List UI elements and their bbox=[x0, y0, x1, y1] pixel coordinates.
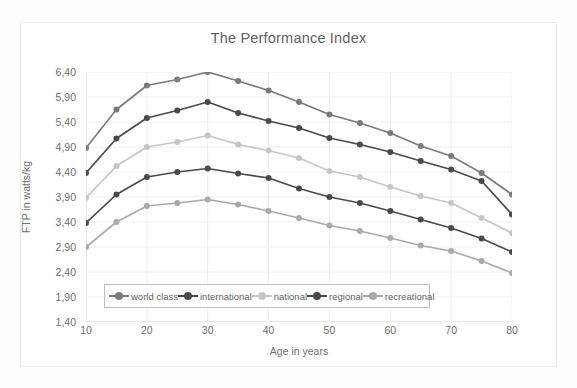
data-point-marker bbox=[296, 215, 302, 221]
y-axis-tick-label: 3,90 bbox=[56, 191, 76, 203]
y-axis-tick-labels: 1,401,902,402,903,403,904,404,905,405,90… bbox=[0, 72, 84, 322]
data-point-marker bbox=[479, 215, 485, 221]
x-axis-tick-label: 80 bbox=[506, 324, 518, 336]
series-line bbox=[86, 169, 512, 253]
y-axis-tick-label: 4,40 bbox=[56, 166, 76, 178]
y-axis-tick-label: 5,90 bbox=[56, 91, 76, 103]
chart-title: The Performance Index bbox=[0, 30, 577, 46]
data-point-marker bbox=[357, 228, 363, 234]
data-point-marker bbox=[418, 193, 424, 199]
data-point-marker bbox=[235, 202, 241, 208]
data-point-marker bbox=[205, 166, 211, 172]
data-point-marker bbox=[357, 120, 363, 126]
data-point-marker bbox=[479, 170, 485, 176]
x-axis-tick-label: 70 bbox=[445, 324, 457, 336]
y-axis-tick-label: 1,40 bbox=[56, 316, 76, 328]
data-point-marker bbox=[205, 99, 211, 105]
data-point-marker bbox=[235, 171, 241, 177]
data-point-marker bbox=[113, 136, 119, 142]
data-point-marker bbox=[266, 88, 272, 94]
data-point-marker bbox=[479, 236, 485, 242]
data-point-marker bbox=[509, 249, 512, 255]
data-point-marker bbox=[113, 219, 119, 225]
legend-marker-icon bbox=[178, 291, 198, 301]
data-point-marker bbox=[418, 243, 424, 249]
data-point-marker bbox=[326, 135, 332, 141]
y-axis-tick-label: 3,40 bbox=[56, 216, 76, 228]
data-point-marker bbox=[296, 125, 302, 131]
data-point-marker bbox=[448, 167, 454, 173]
y-axis-tick-label: 2,40 bbox=[56, 266, 76, 278]
x-axis-tick-label: 10 bbox=[80, 324, 92, 336]
legend-item-label: recreational bbox=[385, 291, 435, 302]
legend-item[interactable]: regional bbox=[307, 291, 363, 302]
data-point-marker bbox=[144, 174, 150, 180]
data-point-marker bbox=[387, 208, 393, 214]
x-axis-tick-label: 40 bbox=[263, 324, 275, 336]
chart-figure: The Performance Index FTP in watts/kg 1,… bbox=[0, 0, 577, 388]
x-axis-tick-label: 30 bbox=[202, 324, 214, 336]
data-point-marker bbox=[387, 184, 393, 190]
data-point-marker bbox=[326, 223, 332, 229]
data-point-marker bbox=[174, 200, 180, 206]
legend-marker-icon bbox=[109, 291, 129, 301]
y-axis-tick-label: 2,90 bbox=[56, 241, 76, 253]
legend-item-label: world class bbox=[131, 291, 178, 302]
legend-item[interactable]: international bbox=[178, 291, 252, 302]
legend-item[interactable]: national bbox=[252, 291, 307, 302]
data-point-marker bbox=[479, 258, 485, 264]
data-point-marker bbox=[235, 78, 241, 84]
data-point-marker bbox=[296, 155, 302, 161]
y-axis-tick-label: 4,90 bbox=[56, 141, 76, 153]
data-point-marker bbox=[174, 139, 180, 145]
y-axis-tick-label: 5,40 bbox=[56, 116, 76, 128]
data-point-marker bbox=[174, 108, 180, 114]
data-point-marker bbox=[357, 142, 363, 148]
legend-item-label: regional bbox=[329, 291, 363, 302]
data-point-marker bbox=[205, 72, 211, 75]
series-line bbox=[86, 200, 512, 274]
chart-legend: world classinternationalnationalregional… bbox=[104, 284, 430, 308]
data-point-marker bbox=[296, 99, 302, 105]
legend-marker-icon bbox=[363, 291, 383, 301]
x-axis-tick-label: 20 bbox=[141, 324, 153, 336]
data-point-marker bbox=[113, 107, 119, 113]
data-point-marker bbox=[448, 200, 454, 206]
data-point-marker bbox=[205, 197, 211, 203]
data-point-marker bbox=[266, 175, 272, 181]
legend-item-label: international bbox=[200, 291, 252, 302]
data-point-marker bbox=[174, 169, 180, 175]
data-point-marker bbox=[144, 203, 150, 209]
data-point-marker bbox=[235, 110, 241, 116]
x-axis-title: Age in years bbox=[86, 345, 512, 357]
data-point-marker bbox=[266, 118, 272, 124]
data-point-marker bbox=[357, 200, 363, 206]
data-point-marker bbox=[448, 248, 454, 254]
data-point-marker bbox=[387, 130, 393, 136]
data-point-marker bbox=[113, 163, 119, 169]
legend-item[interactable]: recreational bbox=[363, 291, 435, 302]
data-point-marker bbox=[418, 158, 424, 164]
data-point-marker bbox=[448, 225, 454, 231]
data-point-marker bbox=[387, 235, 393, 241]
data-point-marker bbox=[205, 133, 211, 139]
data-point-marker bbox=[174, 77, 180, 83]
data-point-marker bbox=[448, 153, 454, 159]
data-point-marker bbox=[357, 174, 363, 180]
data-point-marker bbox=[266, 148, 272, 154]
data-point-marker bbox=[387, 149, 393, 155]
y-axis-tick-label: 6,40 bbox=[56, 66, 76, 78]
legend-item-label: national bbox=[274, 291, 307, 302]
y-axis-tick-label: 1,90 bbox=[56, 291, 76, 303]
data-point-marker bbox=[113, 192, 119, 198]
data-point-marker bbox=[144, 144, 150, 150]
data-point-marker bbox=[266, 208, 272, 214]
x-axis-tick-labels: 1020304050607080 bbox=[86, 324, 512, 342]
data-point-marker bbox=[326, 112, 332, 118]
legend-item[interactable]: world class bbox=[109, 291, 178, 302]
data-point-marker bbox=[326, 194, 332, 200]
data-point-marker bbox=[326, 168, 332, 174]
legend-marker-icon bbox=[252, 291, 272, 301]
data-point-marker bbox=[144, 83, 150, 89]
data-point-marker bbox=[418, 217, 424, 223]
